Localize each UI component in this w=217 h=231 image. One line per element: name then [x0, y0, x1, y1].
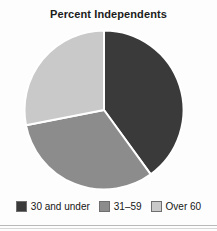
chart-title: Percent Independents — [0, 8, 217, 20]
legend-item-over-60: Over 60 — [151, 201, 202, 212]
legend-swatch-icon-30-and-under — [16, 201, 27, 212]
pie-slice — [24, 31, 104, 126]
legend-item-30-and-under: 30 and under — [16, 201, 90, 212]
legend-swatch-icon-over-60 — [151, 201, 162, 212]
chart-legend: 30 and under 31–59 Over 60 — [0, 201, 217, 212]
legend-label-31-59: 31–59 — [114, 201, 142, 212]
legend-item-31-59: 31–59 — [99, 201, 142, 212]
legend-label-over-60: Over 60 — [166, 201, 202, 212]
legend-swatch-icon-31-59 — [99, 201, 110, 212]
legend-label-30-and-under: 30 and under — [31, 201, 90, 212]
pie-slice-group — [24, 31, 183, 190]
footer-divider — [0, 225, 217, 226]
pie-plot-area — [24, 29, 184, 191]
footer-divider-secondary — [0, 228, 217, 229]
pie-chart-figure: Percent Independents 30 and under 31–59 … — [0, 0, 217, 231]
pie-svg — [24, 29, 184, 191]
